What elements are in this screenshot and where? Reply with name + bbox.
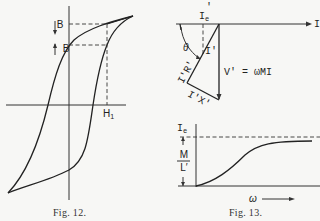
arrow-down-icon [181, 177, 185, 186]
label-h1: H1 [103, 108, 114, 120]
label-i-prime: I′ [205, 46, 217, 57]
theta-arrow-icon [196, 55, 201, 59]
label-b-lower: B [63, 43, 70, 54]
label-ix: I′X′ [186, 89, 212, 110]
label-omega: ω [249, 193, 257, 204]
label-l-prime: L′ [180, 162, 188, 173]
fig12-caption: Fig. 12. [53, 207, 86, 218]
fig13-caption: Fig. 13. [229, 207, 262, 218]
arrow-up-icon [181, 137, 185, 145]
label-ie: Ie [177, 123, 187, 135]
arrow-up-icon [53, 43, 57, 55]
label-theta: θ [183, 42, 189, 53]
label-i: I [314, 19, 320, 30]
label-b-upper: B [57, 19, 64, 30]
label-ir: I′R′ [176, 59, 197, 85]
i-axis-arrow-icon [306, 22, 312, 27]
label-v: V′ = ωMI [224, 67, 272, 78]
fig12-hysteresis: B B H1 Fig. 12. [6, 6, 133, 218]
svg-text:′: ′ [206, 2, 212, 13]
omega-arrow-icon [289, 197, 295, 201]
fig13-phasor: I Ie ′ θ I′ I′R′ I′X′ V′ = ωMI [176, 2, 320, 110]
recoil-line [107, 16, 133, 24]
figure-canvas: B B H1 Fig. 12. I Ie ′ θ [0, 0, 320, 221]
label-m: M [180, 149, 188, 160]
fig13-response-chart: Ie M L′ ω Fig. 13. [177, 123, 320, 218]
ie-curve [196, 141, 312, 186]
